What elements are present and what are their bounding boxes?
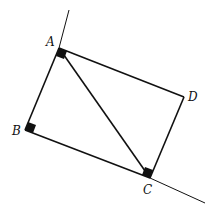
geometry-diagram: A B C D	[0, 0, 215, 214]
extension-line-lower	[150, 178, 205, 203]
extension-line-upper	[59, 10, 69, 48]
segment-cd	[150, 97, 184, 178]
diagonal-ac	[59, 48, 150, 178]
segment-bc	[25, 130, 150, 178]
segment-da	[59, 48, 184, 97]
segment-ab	[25, 48, 59, 130]
label-a: A	[45, 35, 55, 49]
label-d: D	[187, 90, 198, 104]
label-b: B	[11, 124, 21, 138]
label-c: C	[143, 183, 152, 197]
